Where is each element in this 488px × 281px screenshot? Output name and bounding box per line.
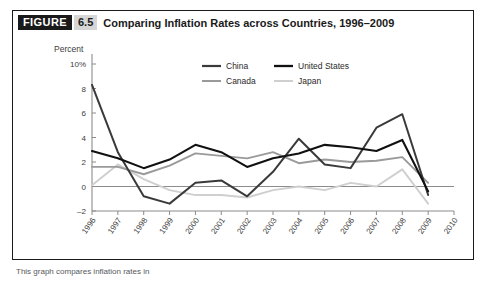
y-tick-label: –2: [77, 207, 86, 216]
y-tick-label: 2: [82, 158, 87, 167]
x-tick-label: 2005: [313, 216, 331, 236]
x-tick-label: 1999: [158, 216, 176, 236]
inflation-line-chart: 10%86420–2Percent19961997199819992000200…: [12, 36, 474, 258]
x-tick-label: 2010: [442, 216, 460, 236]
x-tick-label: 2009: [416, 216, 434, 236]
y-tick-label: 0: [82, 183, 87, 192]
x-tick-label: 1997: [106, 216, 124, 236]
y-tick-label: 6: [82, 109, 87, 118]
x-tick-label: 2007: [364, 216, 382, 236]
y-tick-label: 8: [82, 85, 87, 94]
figure-title: Comparing Inflation Rates across Countri…: [103, 17, 394, 29]
x-tick-label: 2002: [235, 216, 253, 236]
y-axis-title: Percent: [54, 44, 84, 54]
y-tick-label: 10%: [70, 60, 86, 69]
legend-label-japan: Japan: [298, 76, 321, 86]
figure-header: FIGURE 6.5 Comparing Inflation Rates acr…: [18, 15, 394, 30]
x-tick-label: 2000: [183, 216, 201, 236]
legend-label-united-states: United States: [298, 61, 349, 71]
x-tick-label: 2004: [287, 216, 305, 236]
x-tick-label: 2008: [390, 216, 408, 236]
figure-badge-word: FIGURE: [18, 15, 72, 30]
x-tick-label: 1996: [80, 216, 98, 236]
x-axis-title: Year: [433, 256, 450, 258]
figure-page: FIGURE 6.5 Comparing Inflation Rates acr…: [0, 0, 488, 281]
x-tick-label: 2003: [261, 216, 279, 236]
figure-footnote: This graph compares inflation rates in: [16, 266, 472, 280]
chart-plot-area: 10%86420–2Percent19961997199819992000200…: [12, 36, 474, 258]
x-tick-label: 1998: [132, 216, 150, 236]
x-tick-label: 2006: [339, 216, 357, 236]
y-tick-label: 4: [82, 134, 87, 143]
x-tick-label: 2001: [209, 216, 227, 236]
legend-label-canada: Canada: [226, 76, 256, 86]
figure-badge-number: 6.5: [74, 15, 97, 30]
legend-label-china: China: [226, 61, 248, 71]
